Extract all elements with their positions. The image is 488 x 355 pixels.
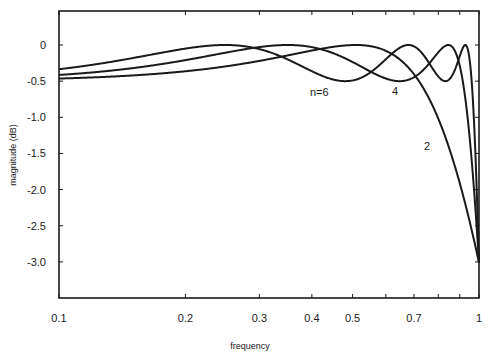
y-tick-label: -3.0 [27,256,46,268]
curve-label-2: 2 [424,140,430,152]
x-axis-title: frequency [230,341,270,351]
curves [59,45,479,263]
x-tick-label: 0.4 [304,312,319,324]
chebyshev-magnitude-chart: 0.10.20.30.40.50.71 0-0.5-1.0-1.5-2.0-2.… [0,0,488,355]
x-tick-label: 0.2 [178,312,193,324]
y-axis-title: magnitude (dB) [8,124,18,186]
y-tick-label: -2.5 [27,220,46,232]
x-tick-label: 0.1 [51,312,66,324]
y-tick-label: -1.5 [27,147,46,159]
y-tick-label: -0.5 [27,75,46,87]
y-tick-label: 0 [40,39,46,51]
curve-label-n6: n=6 [310,86,329,98]
plot-frame [59,11,479,298]
x-tick-label: 0.7 [406,312,421,324]
y-tick-label: -2.0 [27,184,46,196]
x-tick-label: 0.5 [345,312,360,324]
x-tick-label: 0.3 [252,312,267,324]
x-axis-ticks: 0.10.20.30.40.50.71 [51,11,482,324]
curve-order-2 [59,45,479,263]
y-axis-ticks: 0-0.5-1.0-1.5-2.0-2.5-3.0 [27,39,479,268]
y-tick-label: -1.0 [27,111,46,123]
x-tick-label: 1 [476,312,482,324]
curve-label-4: 4 [392,85,398,97]
